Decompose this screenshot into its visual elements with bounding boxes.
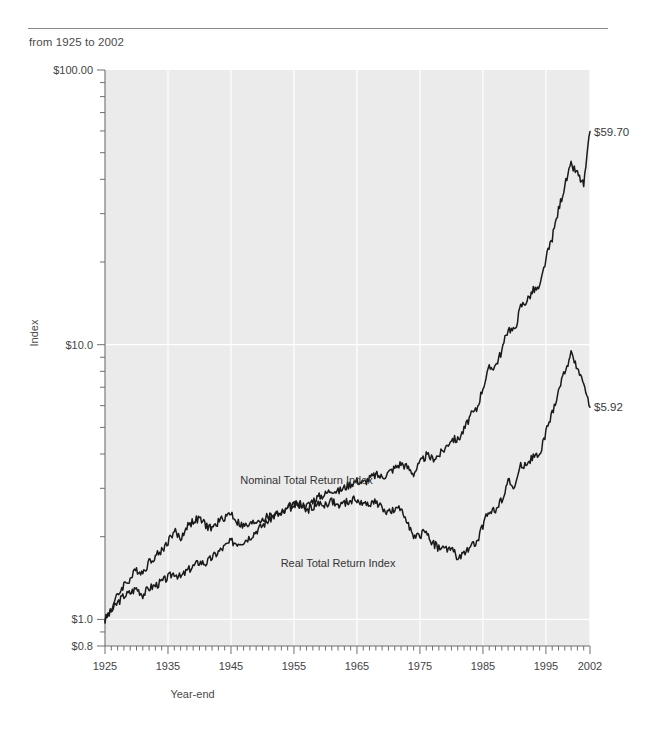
x-tick-label: 2002	[578, 660, 602, 672]
y-tick-label: $0.8	[72, 640, 93, 652]
x-axis-title: Year-end	[170, 688, 214, 700]
y-tick-label: $10.0	[65, 339, 93, 351]
line-chart: $100.00$10.0$1.0$0.819251935194519551965…	[0, 0, 655, 737]
y-tick-label: $1.0	[72, 613, 93, 625]
x-tick-label: 1955	[282, 660, 306, 672]
x-tick-label: 1945	[219, 660, 243, 672]
series-annotation: Nominal Total Return Index	[240, 474, 373, 486]
chart-svg: $100.00$10.0$1.0$0.819251935194519551965…	[0, 0, 655, 737]
x-tick-label: 1995	[534, 660, 558, 672]
y-tick-label: $100.00	[53, 64, 93, 76]
series-annotation: Real Total Return Index	[281, 557, 396, 569]
x-tick-label: 1925	[93, 660, 117, 672]
series-end-value-label: $59.70	[594, 126, 629, 138]
x-tick-label: 1985	[471, 660, 495, 672]
x-tick-label: 1975	[408, 660, 432, 672]
y-axis-title: Index	[28, 319, 40, 346]
series-end-value-label: $5.92	[594, 401, 623, 413]
x-tick-label: 1965	[345, 660, 369, 672]
x-tick-label: 1935	[156, 660, 180, 672]
chart-page: from 1925 to 2002 $100.00$10.0$1.0$0.819…	[0, 0, 655, 737]
